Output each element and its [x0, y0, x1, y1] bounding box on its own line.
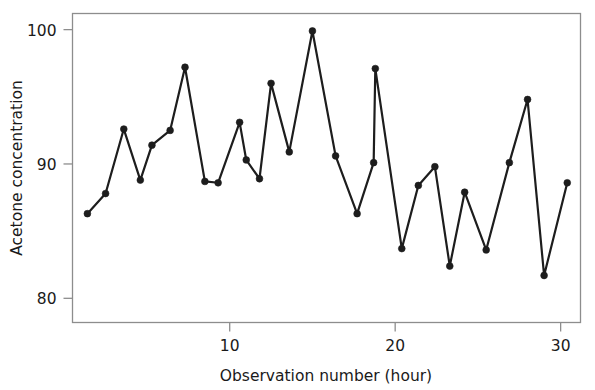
data-point: [236, 119, 243, 126]
y-axis-title: Acetone concentration: [8, 80, 26, 256]
data-point: [149, 142, 156, 149]
data-point: [398, 245, 405, 252]
data-point: [201, 178, 208, 185]
data-point: [483, 247, 490, 254]
data-point: [309, 28, 316, 35]
x-tick-label-20: 20: [385, 337, 405, 355]
data-point: [84, 210, 91, 217]
y-tick-label-100: 100: [27, 22, 57, 40]
chart-background: [0, 0, 595, 390]
x-tick-label-30: 30: [551, 337, 571, 355]
data-point: [506, 159, 513, 166]
data-point: [332, 153, 339, 160]
chart-figure: 8090100 102030 Observation number (hour)…: [0, 0, 595, 390]
data-point: [461, 189, 468, 196]
data-point: [167, 127, 174, 134]
acetone-concentration-line-chart: 8090100 102030 Observation number (hour)…: [0, 0, 595, 390]
x-axis-title: Observation number (hour): [220, 367, 432, 385]
data-point: [431, 163, 438, 170]
data-point: [372, 65, 379, 72]
data-point: [182, 64, 189, 71]
data-point: [268, 80, 275, 87]
data-point: [564, 179, 571, 186]
y-tick-label-80: 80: [37, 290, 57, 308]
data-point: [524, 96, 531, 103]
data-point: [446, 263, 453, 270]
data-point: [541, 272, 548, 279]
data-point: [256, 175, 263, 182]
data-point: [120, 126, 127, 133]
data-point: [137, 177, 144, 184]
data-point: [215, 179, 222, 186]
data-point: [286, 148, 293, 155]
y-tick-label-90: 90: [37, 156, 57, 174]
x-tick-label-10: 10: [220, 337, 240, 355]
data-point: [415, 182, 422, 189]
data-point: [102, 190, 109, 197]
data-point: [354, 210, 361, 217]
data-point: [370, 159, 377, 166]
data-point: [243, 157, 250, 164]
